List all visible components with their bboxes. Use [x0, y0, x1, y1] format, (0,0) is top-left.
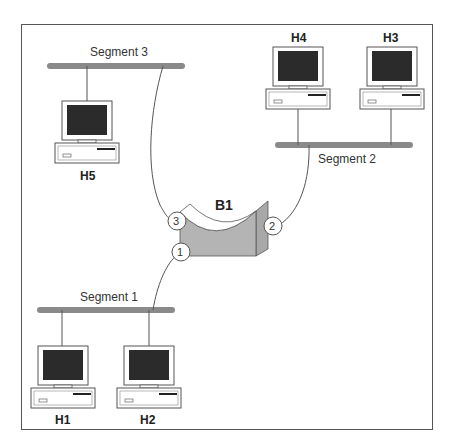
- host-h2: [117, 346, 181, 408]
- computer-icon: [266, 47, 330, 109]
- host-h3-label: H3: [383, 31, 399, 45]
- svg-text:2: 2: [269, 220, 275, 232]
- svg-text:1: 1: [177, 246, 183, 258]
- segment-3-label: Segment 3: [90, 45, 148, 59]
- segment-3: Segment 3: [50, 45, 182, 66]
- svg-text:3: 3: [173, 215, 179, 227]
- computer-icon: [360, 47, 424, 109]
- port-2: 2: [264, 217, 282, 235]
- link-segment3-port3: [151, 66, 170, 219]
- host-h2-label: H2: [140, 413, 156, 427]
- host-h5-label: H5: [80, 169, 96, 183]
- host-h1: [31, 346, 95, 408]
- computer-icon: [55, 101, 119, 163]
- host-h5: [55, 101, 119, 163]
- host-h1-label: H1: [55, 413, 71, 427]
- computer-icon: [117, 346, 181, 408]
- port-3: 3: [168, 212, 186, 230]
- bridge-b1-label: B1: [215, 197, 233, 213]
- segment-1: Segment 1: [40, 290, 172, 310]
- segment-2: Segment 2: [278, 145, 410, 166]
- link-segment2-port2: [279, 145, 309, 225]
- network-diagram: Segment 3 H5 Segment 2 H4 H3 Segment 1 H…: [0, 0, 452, 446]
- host-h3: [360, 47, 424, 109]
- host-h4-label: H4: [291, 31, 307, 45]
- bridge-b1: B1: [180, 197, 268, 256]
- computer-icon: [31, 346, 95, 408]
- port-1: 1: [172, 243, 190, 261]
- segment-2-label: Segment 2: [318, 152, 376, 166]
- segment-1-label: Segment 1: [80, 290, 138, 304]
- host-h4: [266, 47, 330, 109]
- link-segment1-port1: [153, 257, 175, 310]
